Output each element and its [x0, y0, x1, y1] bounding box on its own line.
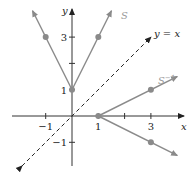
curve-S-inverse-point — [148, 87, 154, 93]
curve-S-inverse-vertex-point — [95, 113, 101, 119]
x-tick-label: −1 — [38, 121, 53, 132]
function-inverse-diagram: −113−113 x y S S−1 y = x — [0, 0, 196, 173]
y-axis-label: y — [61, 5, 68, 16]
identity-line-label: y = x — [153, 28, 180, 39]
y-tick-label: 3 — [61, 32, 67, 43]
x-axis-label: x — [181, 121, 187, 132]
curve-S-inverse-label-sup: −1 — [165, 74, 175, 82]
curve-S-inverse-point — [148, 139, 154, 145]
curve-S-inverse-upper-branch — [98, 77, 177, 116]
curve-S-label: S — [121, 10, 128, 21]
identity-line — [22, 37, 151, 166]
curve-S-point — [43, 34, 49, 40]
curve-S-inverse-label: S−1 — [158, 74, 175, 86]
x-tick-label: 1 — [95, 121, 101, 132]
x-tick-label: 3 — [148, 121, 154, 132]
curve-S-right-branch — [72, 11, 111, 90]
curve-S-vertex-point — [69, 87, 75, 93]
curve-S-left-branch — [33, 11, 72, 90]
y-tick-label: 1 — [61, 85, 67, 96]
y-tick-label: −1 — [52, 137, 67, 148]
curve-S-point — [95, 34, 101, 40]
curve-S-inverse-lower-branch — [98, 116, 177, 155]
